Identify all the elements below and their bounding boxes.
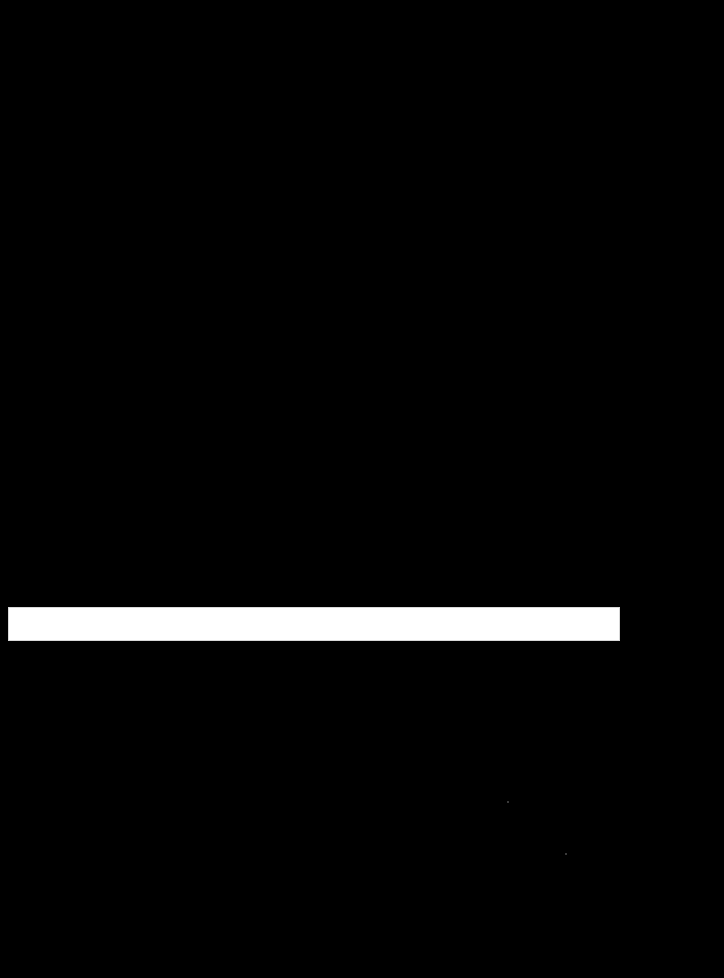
pixel-speck — [507, 801, 509, 803]
white-input-bar[interactable] — [8, 607, 620, 641]
pixel-speck — [565, 853, 567, 855]
dark-screen — [0, 0, 724, 978]
